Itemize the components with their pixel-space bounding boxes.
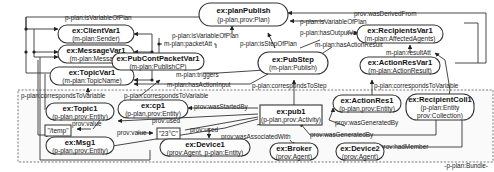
svg-text:(m-plan:PublishCP): (m-plan:PublishCP) <box>129 63 186 71</box>
edge-label-isvariableofplan-mid: p-plan:isVariableOfPlan <box>172 32 239 40</box>
edge-label-correspondstovariable-left: p-plan:correspondsToVariable <box>21 92 106 100</box>
svg-text:"23°C": "23°C" <box>159 130 179 137</box>
svg-text:(prov:Agent): (prov:Agent) <box>342 153 378 161</box>
svg-text:ex:RecipientsVar1: ex:RecipientsVar1 <box>367 26 433 35</box>
svg-text:(m-plan:AffectedAgents): (m-plan:AffectedAgents) <box>365 35 436 43</box>
node-clientvar1[interactable]: ex:ClientVar1 (m-plan:Sender) <box>58 25 134 43</box>
provenance-diagram: -p-plan:Bundle- p-plan:isVariableOfPlan … <box>0 0 494 172</box>
svg-text:"/temp": "/temp" <box>47 127 69 135</box>
svg-text:(m-plan:Sender): (m-plan:Sender) <box>72 35 120 43</box>
edge-label-hasactioninput: m-plan:hasActionInput <box>167 81 231 89</box>
bundle-label: -p-plan:Bundle- <box>444 162 488 170</box>
svg-text:ex:TopicVar1: ex:TopicVar1 <box>69 68 116 77</box>
edge-label-hadmember: prov:hadMember <box>380 143 429 151</box>
node-cp1[interactable]: ex:cp1 (p-plan,prov:Entity) <box>118 100 188 118</box>
edge-label-wasderivedfrom: prov:wasDerivedFrom <box>354 10 417 18</box>
edge-label-correspondstostep: p-plan:correspondsToStep <box>252 82 327 90</box>
svg-text:(p-plan,prov:Plan): (p-plan,prov:Plan) <box>217 16 269 24</box>
node-device1[interactable]: ex:Device1 (prov:Agent, p-plan:Entity) <box>160 139 250 157</box>
svg-text:(p-plan,prov:Entity): (p-plan,prov:Entity) <box>125 110 181 118</box>
svg-text:(prov:Agent): (prov:Agent) <box>276 153 312 161</box>
node-pubcontpacketvar1[interactable]: ex:PubContPacketVar1 (m-plan:PublishCP) <box>112 53 204 71</box>
svg-text:ex:planPublish: ex:planPublish <box>216 6 270 15</box>
svg-text:(p-plan,prov:Entity): (p-plan,prov:Entity) <box>52 147 108 155</box>
node-pub1[interactable]: ex:pub1 (p-plan,prov:Activity) <box>260 105 322 125</box>
node-recipientcoll1[interactable]: ex:RecipientColl1 (p-plan:Entity prov:Co… <box>406 94 474 120</box>
svg-text:ex:pub1: ex:pub1 <box>276 107 306 116</box>
node-actionresvar1[interactable]: ex:ActionResVar1 (m-plan:ActionResult) <box>360 57 440 75</box>
svg-text:(p-plan,prov:Activity): (p-plan,prov:Activity) <box>261 116 321 124</box>
edge-label-packetatt: m-plan:packetAtt <box>164 40 212 48</box>
edge-label-wasgeneratedby-a: prov:wasGeneratedBy <box>335 119 399 127</box>
edge-label-correspondstovariable-cp: p-plan:correspondsToVariable <box>124 92 209 100</box>
edge-label-value-celsius: prov:value <box>117 129 147 137</box>
edge-label-resultatt: m-plan:resultAtt <box>386 49 431 57</box>
svg-text:(m-plan:Publish): (m-plan:Publish) <box>269 64 317 72</box>
node-pubstep[interactable]: ex:PubStep (m-plan:Publish) <box>258 52 328 74</box>
svg-text:(p-plan,prov:Entity): (p-plan,prov:Entity) <box>339 105 395 113</box>
node-device2[interactable]: ex:Device2 (prov:Agent) <box>336 143 384 161</box>
svg-text:ex:cp1: ex:cp1 <box>141 101 166 110</box>
node-broker[interactable]: ex:Broker (prov:Agent) <box>270 143 318 161</box>
svg-text:prov:Collection): prov:Collection) <box>417 112 463 120</box>
node-actionres1[interactable]: ex:ActionRes1 (p-plan,prov:Entity) <box>333 95 401 113</box>
edge-label-isvariableofplan-right: p-plan:isVariableOfPlan <box>300 18 367 26</box>
literal-temp: "/temp" <box>45 125 71 136</box>
svg-text:ex:PubStep: ex:PubStep <box>272 55 314 64</box>
edge-label-wasstartedby: prov:wasStartedBy <box>194 103 248 111</box>
literal-celsius: "23°C" <box>157 128 180 139</box>
node-recipientsvar1[interactable]: ex:RecipientsVar1 (m-plan:AffectedAgents… <box>357 25 443 43</box>
edge-label-isvariableofplan-top: p-plan:isVariableOfPlan <box>65 14 132 22</box>
edge-label-wasgeneratedby-b: prov:wasGeneratedBy <box>310 131 374 139</box>
node-msg1[interactable]: ex:Msg1 (p-plan,prov:Entity) <box>46 137 114 155</box>
svg-text:(m-plan:ActionResult): (m-plan:ActionResult) <box>368 67 431 75</box>
svg-text:(p-plan,prov:Entity): (p-plan,prov:Entity) <box>52 113 108 121</box>
node-topic1[interactable]: ex:Topic1 (p-plan,prov:Entity) <box>46 103 114 121</box>
node-planpublish[interactable]: ex:planPublish (p-plan,prov:Plan) <box>199 3 288 26</box>
svg-text:ex:RecipientColl1: ex:RecipientColl1 <box>408 95 472 104</box>
svg-text:(prov:Agent, p-plan:Entity): (prov:Agent, p-plan:Entity) <box>167 149 244 157</box>
svg-text:ex:ClientVar1: ex:ClientVar1 <box>72 26 121 35</box>
edge-label-triggers: m-plan:triggers <box>176 71 219 79</box>
svg-text:(m-plan:TopicName): (m-plan:TopicName) <box>62 77 121 85</box>
edge-label-correspondstovariable-right: p-plan:correspondsToVariable <box>374 82 459 90</box>
edge-label-isstepofplan: p-plan:isStepOfPlan <box>240 40 297 48</box>
